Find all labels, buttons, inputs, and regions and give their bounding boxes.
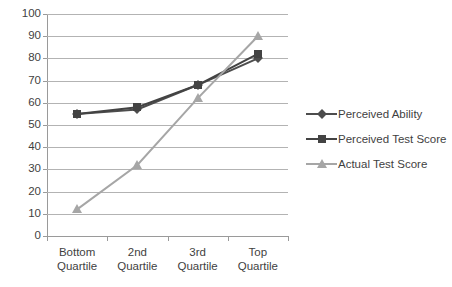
legend-key-marker	[318, 135, 326, 143]
data-point-marker	[194, 81, 202, 89]
series-line	[77, 36, 258, 209]
x-axis-tick-label-line: Top	[220, 245, 296, 259]
series-lines	[47, 14, 288, 236]
y-axis-tick-label: 50	[3, 119, 41, 131]
x-axis-tick-mark	[228, 237, 229, 241]
y-axis-tick-label: 30	[3, 163, 41, 175]
y-axis-tick-label: 100	[3, 8, 41, 20]
y-axis-tick-label: 80	[3, 52, 41, 64]
legend-entry[interactable]: Perceived Ability	[306, 101, 450, 126]
y-axis-tick-label: 10	[3, 208, 41, 220]
y-axis-tick-mark	[43, 58, 47, 59]
legend-key-marker	[317, 109, 327, 119]
legend-entry[interactable]: Perceived Test Score	[306, 126, 450, 151]
legend-key	[306, 157, 337, 171]
y-axis-tick-mark	[43, 147, 47, 148]
legend-label: Perceived Test Score	[338, 133, 446, 145]
x-axis-tick-mark	[107, 237, 108, 241]
y-axis-tick-mark	[43, 192, 47, 193]
legend-key	[306, 107, 337, 121]
y-axis-tick-mark	[43, 14, 47, 15]
y-axis-tick-mark	[43, 214, 47, 215]
data-point-marker	[254, 50, 262, 58]
y-axis-tick-label: 90	[3, 30, 41, 42]
line-chart: 1009080706050403020100 BottomQuartile2nd…	[0, 0, 452, 287]
plot-area	[47, 14, 288, 236]
y-axis-tick-mark	[43, 169, 47, 170]
x-axis-tick-label: TopQuartile	[220, 245, 296, 273]
data-point-marker	[253, 31, 263, 40]
x-axis-tick-label-line: Quartile	[220, 259, 296, 273]
x-axis-tick-mark	[168, 237, 169, 241]
y-axis-tick-label: 70	[3, 75, 41, 87]
y-axis-tick-mark	[43, 81, 47, 82]
legend-key-marker	[317, 159, 327, 168]
y-axis-tick-mark	[43, 125, 47, 126]
legend-label: Actual Test Score	[338, 158, 427, 170]
y-axis-tick-mark	[43, 236, 47, 237]
data-point-marker	[193, 93, 203, 102]
y-axis-tick-label: 40	[3, 141, 41, 153]
chart-legend: Perceived AbilityPerceived Test ScoreAct…	[306, 101, 450, 176]
x-axis-tick-mark	[288, 237, 289, 241]
x-axis-tick-mark	[47, 237, 48, 241]
y-axis-tick-label: 0	[3, 230, 41, 242]
data-point-marker	[72, 204, 82, 213]
legend-entry[interactable]: Actual Test Score	[306, 151, 450, 176]
y-axis-tick-label: 60	[3, 97, 41, 109]
y-axis-tick-labels: 1009080706050403020100	[0, 0, 41, 287]
data-point-marker	[73, 110, 81, 118]
y-axis-tick-mark	[43, 103, 47, 104]
series-line	[77, 58, 258, 114]
data-point-marker	[133, 103, 141, 111]
y-axis-tick-label: 20	[3, 186, 41, 198]
y-axis-tick-mark	[43, 36, 47, 37]
legend-key	[306, 132, 337, 146]
data-point-marker	[132, 160, 142, 169]
legend-label: Perceived Ability	[338, 108, 422, 120]
